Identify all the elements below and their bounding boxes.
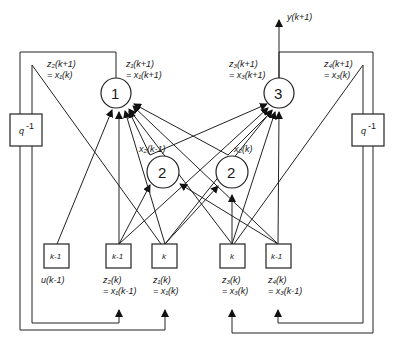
svg-text:= x₃(k+1): = x₃(k+1) bbox=[229, 70, 266, 80]
label-z3-next: z₃(k+1) = x₃(k+1) bbox=[228, 59, 266, 80]
label-x2-current: x₂(k) bbox=[233, 144, 252, 154]
node-3: 3 bbox=[264, 78, 294, 108]
network-diagram: q -1 q -1 1 3 2 2 k-1 u(k-1) k-1 z₂(k) =… bbox=[0, 0, 396, 346]
svg-text:z₂(k+1): z₂(k+1) bbox=[46, 59, 76, 69]
right-feedback-loop bbox=[232, 52, 373, 333]
delay-block-right: q -1 bbox=[352, 114, 384, 146]
svg-text:2: 2 bbox=[227, 164, 235, 181]
svg-text:k-1: k-1 bbox=[112, 252, 123, 261]
svg-text:q: q bbox=[19, 126, 24, 136]
node-1: 1 bbox=[101, 78, 131, 108]
output-label: y(k+1) bbox=[286, 12, 312, 22]
svg-text:= x₁(k+1): = x₁(k+1) bbox=[126, 70, 162, 80]
label-z1-next: z₁(k+1) = x₁(k+1) bbox=[125, 59, 162, 80]
svg-text:z₁(k+1): z₁(k+1) bbox=[125, 59, 154, 69]
svg-text:z₄(k): z₄(k) bbox=[267, 275, 287, 285]
left-feedback-loop bbox=[20, 52, 165, 330]
svg-text:z₁(k): z₁(k) bbox=[152, 275, 171, 285]
input-box-z1: k z₁(k) = x₁(k) bbox=[152, 244, 179, 296]
svg-text:k-1: k-1 bbox=[271, 252, 282, 261]
node-2-right: 2 bbox=[216, 156, 248, 188]
svg-text:z₃(k): z₃(k) bbox=[221, 275, 241, 285]
svg-text:= x₃(k): = x₃(k) bbox=[324, 70, 350, 80]
svg-text:1: 1 bbox=[111, 85, 119, 102]
input-box-z2: k-1 z₂(k) = x₁(k-1) bbox=[102, 244, 137, 296]
input-box-z3: k z₃(k) = x₃(k) bbox=[220, 244, 248, 296]
svg-text:= x₃(k-1): = x₃(k-1) bbox=[268, 286, 302, 296]
svg-text:u(k-1): u(k-1) bbox=[41, 275, 65, 285]
label-z4-next: z₄(k+1) = x₃(k) bbox=[323, 59, 353, 80]
svg-text:-1: -1 bbox=[26, 121, 34, 131]
delay-block-left: q -1 bbox=[10, 114, 42, 146]
input-box-z4: k-1 z₄(k) = x₃(k-1) bbox=[266, 244, 302, 296]
svg-text:z₂(k): z₂(k) bbox=[102, 275, 121, 285]
svg-text:= x₁(k): = x₁(k) bbox=[153, 286, 179, 296]
label-z2-next: z₂(k+1) = x₁(k) bbox=[46, 59, 76, 80]
node-2-left: 2 bbox=[147, 156, 179, 188]
svg-text:z₃(k+1): z₃(k+1) bbox=[228, 59, 258, 69]
svg-text:z₄(k+1): z₄(k+1) bbox=[323, 59, 353, 69]
svg-text:2: 2 bbox=[158, 164, 166, 181]
svg-text:-1: -1 bbox=[368, 121, 376, 131]
svg-text:= x₁(k): = x₁(k) bbox=[47, 70, 73, 80]
svg-text:k-1: k-1 bbox=[50, 252, 61, 261]
svg-text:3: 3 bbox=[274, 85, 282, 102]
label-x2-prev: x₂(k-1) bbox=[138, 144, 165, 154]
svg-text:= x₁(k-1): = x₁(k-1) bbox=[103, 286, 137, 296]
svg-text:q: q bbox=[361, 126, 366, 136]
input-box-u: k-1 u(k-1) bbox=[41, 244, 69, 285]
svg-text:= x₃(k): = x₃(k) bbox=[222, 286, 248, 296]
